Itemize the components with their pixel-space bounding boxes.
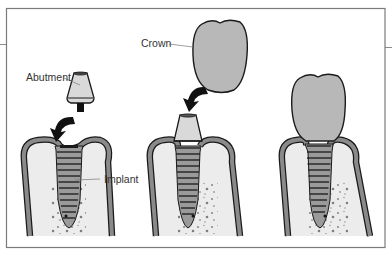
crown-label: Crown (141, 37, 172, 49)
abutment-label: Abutment (26, 71, 71, 83)
implant-label: Implant (104, 173, 139, 185)
crown-floating (193, 20, 247, 92)
crown-seated (292, 74, 346, 141)
dental-implant-diagram: Abutment Implant Crown (0, 0, 392, 253)
